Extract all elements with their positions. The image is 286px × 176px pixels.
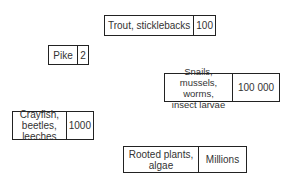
node-count: 100 [193,16,215,35]
node-label: Snails, mussels, worms, insect larvae [165,74,232,101]
node-label: Trout, sticklebacks [105,16,193,35]
node-count: 100 000 [232,74,279,101]
node-trout: Trout, sticklebacks 100 [104,15,216,36]
node-label: Crayfish, beetles, leeches [13,112,66,139]
node-pike: Pike 2 [48,45,89,65]
node-plants: Rooted plants, algae Millions [123,146,247,173]
node-count: 1000 [66,112,93,139]
node-snails: Snails, mussels, worms, insect larvae 10… [164,73,280,102]
node-label: Pike [49,46,77,64]
node-count: 2 [77,46,88,64]
node-label: Rooted plants, algae [124,147,198,172]
node-count: Millions [198,147,246,172]
node-crayfish: Crayfish, beetles, leeches 1000 [12,111,94,140]
